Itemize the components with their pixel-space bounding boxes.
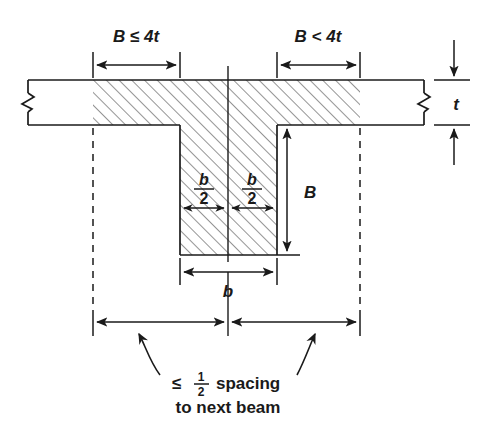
caption-second-line: to next beam xyxy=(176,398,281,417)
spacing-dimension-right xyxy=(232,310,360,336)
thickness-dimension xyxy=(434,40,470,165)
right-flange-dimension-label: B < 4t xyxy=(295,27,343,46)
half-width-right-denominator: 2 xyxy=(248,190,257,207)
caption-leader-left xyxy=(139,334,160,375)
web-depth-dimension-label: B xyxy=(304,183,316,202)
diagram-canvas: B ≤ 4t B < 4t t B b xyxy=(0,0,486,429)
half-width-left-denominator: 2 xyxy=(200,190,209,207)
thickness-dimension-label: t xyxy=(453,95,460,114)
half-width-right-numerator: b xyxy=(247,171,257,188)
beam-section-diagram: B ≤ 4t B < 4t t B b xyxy=(0,0,486,429)
caption-block: ≤ 1 2 spacing to next beam xyxy=(172,370,280,417)
left-flange-dimension-label: B ≤ 4t xyxy=(113,27,161,46)
caption-leader-right xyxy=(297,334,315,375)
caption-inequality-symbol: ≤ xyxy=(172,374,181,393)
caption-fraction-denominator: 2 xyxy=(198,385,205,399)
right-flange-dimension xyxy=(277,52,360,78)
effective-section-hatching xyxy=(93,80,360,255)
caption-fraction-numerator: 1 xyxy=(198,370,205,384)
web-depth-dimension xyxy=(277,129,300,255)
caption-spacing-word: spacing xyxy=(216,374,280,393)
spacing-dimension-left xyxy=(93,310,224,336)
left-flange-dimension xyxy=(93,52,180,78)
break-symbol-left-icon xyxy=(22,93,34,112)
break-symbol-right-icon xyxy=(418,93,430,112)
web-width-dimension-label: b xyxy=(223,282,233,301)
half-width-left-numerator: b xyxy=(199,171,209,188)
